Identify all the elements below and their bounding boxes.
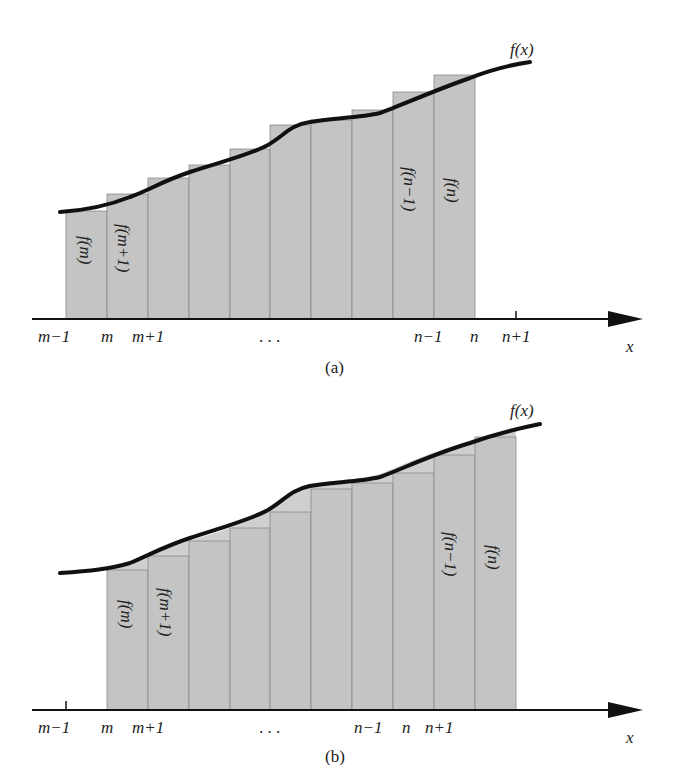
bar — [270, 512, 311, 710]
caption-b: (b) — [325, 747, 345, 765]
bar — [393, 473, 434, 710]
figure-canvas: f(x) m−1 m m+1 n−1 n n+1 . . . x f(m) f(… — [0, 0, 675, 765]
tick-label-m-minus-1: m−1 — [38, 718, 70, 737]
bar-label-f-n-minus-1-a: f(n−1) — [400, 167, 419, 212]
bar — [352, 483, 393, 710]
bar — [189, 541, 230, 710]
bar-label-f-m-plus-1-b: f(m+1) — [156, 588, 175, 637]
tick-label-m: m — [101, 327, 113, 346]
bar — [311, 120, 352, 319]
bar-label-f-m-plus-1-a: f(m+1) — [114, 224, 133, 273]
bar — [270, 125, 311, 319]
panel-b: f(x) m−1 m m+1 n−1 n n+1 . . . x f(m) f(… — [32, 401, 643, 765]
axis-arrow-a-icon — [608, 311, 643, 327]
bar-label-f-m-a: f(m) — [76, 236, 95, 265]
bar-label-f-n-minus-1-b: f(n−1) — [441, 532, 460, 577]
panel-a: f(x) m−1 m m+1 n−1 n n+1 . . . x f(m) f(… — [32, 40, 643, 377]
caption-a: (a) — [325, 358, 344, 377]
curve-label-b: f(x) — [510, 401, 534, 420]
bar — [148, 178, 189, 319]
tick-label-n: n — [470, 327, 479, 346]
bar — [230, 528, 270, 710]
bar-label-f-n-a: f(n) — [443, 178, 462, 203]
axis-arrow-b-icon — [608, 702, 643, 718]
tick-label-m-plus-1: m+1 — [132, 718, 164, 737]
bar — [230, 149, 270, 319]
tick-label-m-plus-1: m+1 — [132, 327, 164, 346]
axis-label-x-a: x — [625, 337, 634, 356]
bar — [352, 110, 393, 319]
bar-f-m — [107, 570, 148, 710]
bar-f-n — [475, 437, 516, 710]
tick-label-n-minus-1: n−1 — [414, 327, 442, 346]
bar-label-f-n-b: f(n) — [484, 545, 503, 570]
bar — [311, 489, 352, 710]
tick-label-n-plus-1: n+1 — [502, 327, 530, 346]
bar-f-m — [66, 211, 107, 319]
bar-label-f-m-b: f(m) — [117, 600, 136, 629]
tick-label-m-minus-1: m−1 — [38, 327, 70, 346]
tick-label-n-minus-1: n−1 — [354, 718, 382, 737]
tick-label-n: n — [402, 718, 411, 737]
ellipsis-a: . . . — [259, 327, 280, 346]
bar — [189, 165, 230, 319]
ellipsis-b: . . . — [259, 718, 280, 737]
tick-label-m: m — [101, 718, 113, 737]
curve-label-a: f(x) — [510, 40, 534, 59]
bar-f-n-minus-1 — [434, 455, 475, 710]
tick-label-n-plus-1: n+1 — [425, 718, 453, 737]
axis-label-x-b: x — [625, 728, 634, 747]
